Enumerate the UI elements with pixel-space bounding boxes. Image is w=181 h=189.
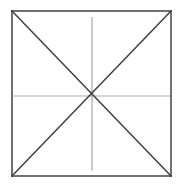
- geometry-diagram: [0, 0, 181, 189]
- corner-vertex-top-left: [11, 10, 13, 12]
- corner-vertex-top-right: [170, 10, 172, 12]
- figure-root: [0, 0, 181, 189]
- corner-vertex-bottom-left: [11, 175, 13, 177]
- corner-vertex-bottom-right: [170, 175, 172, 177]
